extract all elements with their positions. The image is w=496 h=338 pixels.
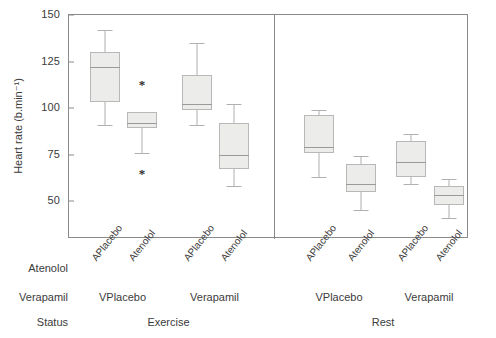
- y-axis-tick-mark: [69, 15, 74, 16]
- whisker-cap-lower: [227, 186, 242, 187]
- box-plot-figure: Heart rate (b.min⁻¹) 1501251007550 ** At…: [0, 0, 496, 338]
- whisker-upper: [234, 104, 235, 123]
- whisker-lower: [319, 153, 320, 177]
- median-line: [304, 147, 334, 148]
- whisker-upper: [105, 30, 106, 52]
- box-iqr: [396, 141, 426, 176]
- median-line: [90, 67, 120, 68]
- box-plot-rest-verapamil-atenolol[interactable]: [434, 15, 464, 237]
- y-axis-tick-label: 50: [34, 194, 60, 206]
- whisker-lower: [142, 128, 143, 152]
- y-axis-tick-label: 150: [34, 8, 60, 20]
- whisker-lower: [197, 110, 198, 125]
- box-iqr: [219, 123, 249, 170]
- plot-area: **: [68, 14, 468, 238]
- verapamil-tick-label: Verapamil: [405, 291, 454, 303]
- box-plot-rest-vplacebo-atenolol[interactable]: [346, 15, 376, 237]
- median-line: [219, 155, 249, 156]
- median-line: [182, 104, 212, 105]
- whisker-cap-upper: [227, 104, 242, 105]
- whisker-lower: [105, 102, 106, 124]
- box-iqr: [127, 112, 157, 129]
- whisker-cap-upper: [312, 110, 327, 111]
- y-axis-label: Heart rate (b.min⁻¹): [12, 78, 25, 174]
- whisker-cap-lower: [354, 210, 369, 211]
- y-axis-tick-label: 125: [34, 55, 60, 67]
- box-plot-rest-verapamil-aplacebo[interactable]: [396, 15, 426, 237]
- whisker-cap-lower: [312, 177, 327, 178]
- y-axis-tick-mark: [69, 108, 74, 109]
- whisker-cap-lower: [190, 125, 205, 126]
- significance-asterisk: *: [139, 167, 146, 180]
- row-header-atenolol: Atenolol: [6, 262, 68, 274]
- whisker-cap-upper: [190, 43, 205, 44]
- y-axis-tick-mark: [69, 201, 74, 202]
- y-axis-tick-label: 75: [34, 148, 60, 160]
- whisker-cap-lower: [404, 184, 419, 185]
- whisker-cap-upper: [442, 179, 457, 180]
- y-axis-label-container: Heart rate (b.min⁻¹): [22, 0, 23, 252]
- whisker-lower: [361, 192, 362, 211]
- whisker-lower: [411, 177, 412, 184]
- whisker-upper: [197, 43, 198, 75]
- box-plot-ex-verapamil-atenolol[interactable]: [219, 15, 249, 237]
- whisker-cap-lower: [442, 218, 457, 219]
- status-tick-label: Exercise: [147, 316, 189, 328]
- box-plot-ex-verapamil-aplacebo[interactable]: [182, 15, 212, 237]
- status-tick-label: Rest: [372, 316, 395, 328]
- whisker-cap-upper: [354, 156, 369, 157]
- whisker-cap-upper: [404, 134, 419, 135]
- whisker-cap-lower: [135, 153, 150, 154]
- box-iqr: [90, 52, 120, 102]
- median-line: [396, 162, 426, 163]
- whisker-lower: [449, 205, 450, 218]
- y-axis-tick-mark: [69, 154, 74, 155]
- row-header-status: Status: [6, 316, 68, 328]
- median-line: [346, 184, 376, 185]
- whisker-cap-upper: [98, 30, 113, 31]
- box-plot-rest-vplacebo-aplacebo[interactable]: [304, 15, 334, 237]
- whisker-upper: [411, 134, 412, 141]
- verapamil-tick-label: VPlacebo: [99, 291, 146, 303]
- median-line: [127, 123, 157, 124]
- row-header-verapamil: Verapamil: [6, 291, 68, 303]
- whisker-upper: [361, 156, 362, 163]
- y-axis-tick-mark: [69, 61, 74, 62]
- whisker-upper: [449, 179, 450, 186]
- panel-divider: [274, 15, 275, 239]
- box-plot-ex-vplacebo-atenolol[interactable]: [127, 15, 157, 237]
- y-axis-tick-label: 100: [34, 101, 60, 113]
- significance-asterisk: *: [139, 77, 146, 90]
- median-line: [434, 195, 464, 196]
- verapamil-tick-label: VPlacebo: [315, 291, 362, 303]
- whisker-cap-lower: [98, 125, 113, 126]
- verapamil-tick-label: Verapamil: [190, 291, 239, 303]
- box-iqr: [346, 164, 376, 192]
- box-plot-ex-vplacebo-aplacebo[interactable]: [90, 15, 120, 237]
- whisker-lower: [234, 169, 235, 186]
